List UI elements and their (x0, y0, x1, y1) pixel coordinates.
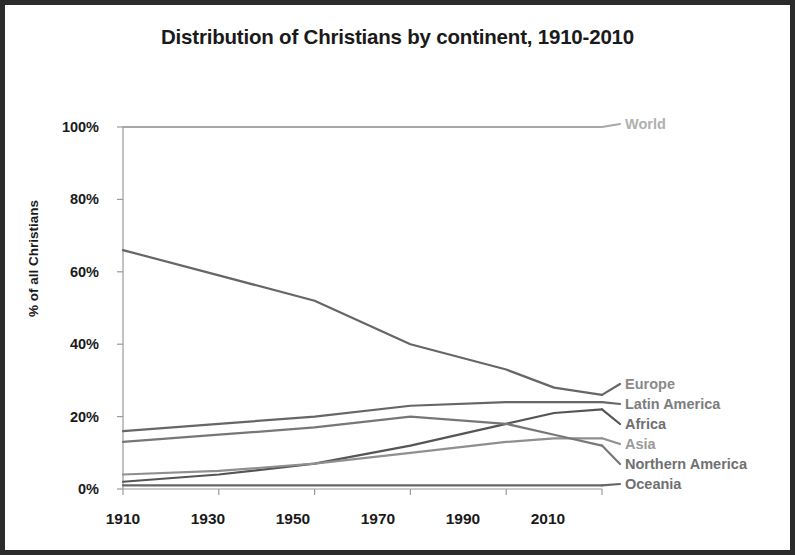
series-line-asia (123, 438, 620, 474)
series-line-latin-america (123, 402, 620, 431)
chart-figure: Distribution of Christians by continent,… (0, 0, 795, 555)
series-line-europe (123, 250, 620, 395)
plot-area (5, 5, 795, 555)
series-line-oceania (123, 484, 620, 485)
series-line-world (123, 124, 620, 127)
